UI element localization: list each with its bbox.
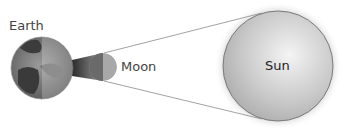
eclipse-diagram [0, 0, 350, 140]
sun-label: Sun [265, 58, 290, 73]
moon [89, 53, 117, 81]
earth-label: Earth [9, 18, 44, 33]
moon-label: Moon [121, 59, 156, 74]
earth [11, 37, 73, 99]
